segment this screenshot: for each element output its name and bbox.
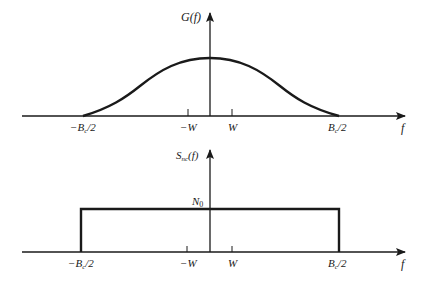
- top-tick-label-minus-bc2: −Bc/2: [70, 121, 96, 135]
- bottom-tick-label-minus-bc2: −Bc/2: [68, 257, 94, 271]
- n0-level-label: N0: [191, 195, 203, 209]
- top-tick-label-bc2: Bc/2: [328, 121, 347, 135]
- bottom-tick-label-bc2: Bc/2: [328, 257, 347, 271]
- top-curve-g-of-f: [83, 58, 339, 116]
- bottom-plot: Snc(f) N0 f −Bc/2 −W W Bc/2: [22, 149, 406, 271]
- bottom-y-label: Snc(f): [176, 149, 199, 163]
- bottom-tick-label-w: W: [228, 257, 238, 269]
- top-y-label: G(f): [181, 10, 201, 24]
- bottom-x-label: f: [401, 257, 406, 271]
- top-x-label: f: [401, 121, 406, 135]
- spectrum-diagram: G(f) f −Bc/2 −W W Bc/2 Snc(f) N0 f −Bc/2: [0, 0, 429, 283]
- bottom-tick-label-minus-w: −W: [180, 257, 197, 269]
- top-tick-label-minus-w: −W: [180, 121, 197, 133]
- top-tick-label-w: W: [228, 121, 238, 133]
- top-plot: G(f) f −Bc/2 −W W Bc/2: [22, 10, 406, 135]
